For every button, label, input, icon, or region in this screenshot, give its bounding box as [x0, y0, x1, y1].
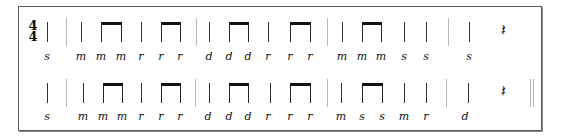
solfege-syllable: d: [225, 111, 232, 123]
barline: [327, 18, 328, 46]
solfege-syllable: r: [138, 51, 143, 63]
barline: [327, 79, 328, 107]
solfege-syllable: r: [265, 51, 270, 63]
eighth-note-pair-beam: [290, 83, 311, 103]
barline: [446, 79, 447, 107]
quarter-note-stem: [81, 22, 82, 42]
barline: [195, 79, 196, 107]
eighth-note-pair-beam: [362, 83, 383, 103]
solfege-syllable: r: [287, 51, 292, 63]
quarter-note-stem: [469, 22, 470, 42]
eighth-note-pair-beam: [229, 22, 249, 42]
solfege-syllable: r: [177, 51, 182, 63]
quarter-note-stem: [270, 83, 271, 103]
quarter-rest-icon: 𝄽: [501, 20, 506, 39]
quarter-note-stem: [47, 83, 48, 103]
barline: [196, 18, 197, 46]
solfege-syllable: r: [138, 111, 143, 123]
eighth-note-pair-beam: [161, 22, 181, 42]
solfege-syllable: s: [401, 51, 407, 63]
quarter-note-stem: [426, 83, 427, 103]
time-signature: 4 4: [27, 20, 39, 42]
solfege-syllable: m: [376, 51, 386, 63]
solfege-syllable: d: [205, 51, 212, 63]
solfege-syllable: r: [287, 111, 292, 123]
quarter-note-stem: [141, 22, 142, 42]
solfege-syllable: d: [244, 111, 251, 123]
time-signature-bottom: 4: [27, 31, 39, 42]
solfege-syllable: m: [399, 111, 409, 123]
solfege-syllable: r: [158, 51, 163, 63]
quarter-note-stem: [141, 83, 142, 103]
quarter-note-stem: [426, 22, 427, 42]
solfege-syllable: m: [337, 51, 347, 63]
solfege-syllable: m: [76, 51, 86, 63]
quarter-note-stem: [268, 22, 269, 42]
solfege-syllable: s: [466, 51, 472, 63]
solfege-syllable: m: [116, 51, 126, 63]
solfege-syllable: m: [117, 111, 127, 123]
solfege-syllable: r: [423, 111, 428, 123]
solfege-syllable: d: [204, 111, 211, 123]
eighth-note-pair-beam: [161, 83, 181, 103]
solfege-syllable: d: [225, 51, 232, 63]
solfege-syllable: m: [78, 111, 88, 123]
eighth-note-pair-beam: [229, 83, 249, 103]
solfege-syllable: s: [359, 111, 365, 123]
solfege-syllable: s: [44, 51, 50, 63]
solfege-syllable: r: [307, 51, 312, 63]
solfege-syllable: r: [265, 111, 270, 123]
solfege-syllable: m: [357, 51, 367, 63]
solfege-syllable: m: [98, 111, 108, 123]
solfege-syllable: m: [96, 51, 106, 63]
quarter-note-stem: [468, 83, 469, 103]
barline: [66, 79, 67, 107]
solfege-syllable: s: [379, 111, 385, 123]
barline: [66, 18, 67, 46]
solfege-syllable: d: [461, 111, 468, 123]
eighth-note-pair-beam: [290, 22, 311, 42]
solfege-syllable: r: [177, 111, 182, 123]
barline: [448, 18, 449, 46]
quarter-note-stem: [341, 83, 342, 103]
final-double-barline: [530, 79, 534, 107]
solfege-syllable: d: [244, 51, 251, 63]
quarter-note-stem: [404, 83, 405, 103]
solfege-syllable: s: [423, 51, 429, 63]
solfege-syllable: m: [336, 111, 346, 123]
eighth-note-pair-beam: [103, 83, 123, 103]
solfege-syllable: s: [44, 111, 50, 123]
eighth-note-pair-beam: [101, 22, 122, 42]
quarter-note-stem: [47, 22, 48, 42]
quarter-note-stem: [209, 83, 210, 103]
eighth-note-pair-beam: [362, 22, 382, 42]
solfege-syllable: r: [158, 111, 163, 123]
quarter-note-stem: [404, 22, 405, 42]
quarter-note-stem: [342, 22, 343, 42]
quarter-rest-icon: 𝄽: [501, 81, 506, 100]
quarter-note-stem: [209, 22, 210, 42]
solfege-syllable: r: [307, 111, 312, 123]
quarter-note-stem: [83, 83, 84, 103]
